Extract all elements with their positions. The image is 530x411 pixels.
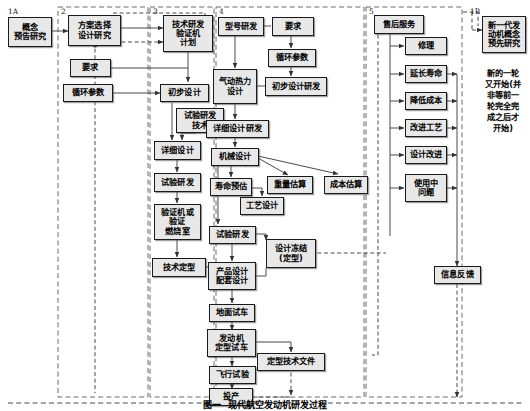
node-requirements-right[interactable]: 要求 [272,17,314,36]
section-label-4: 4 [219,7,224,16]
node-detailed-design-left[interactable]: 详细设计 [154,141,201,160]
node-life-extension[interactable]: 延长寿命 [405,65,447,83]
node-cycle-parameters-left[interactable]: 循环参数 [63,84,113,102]
node-in-service-problems[interactable]: 使用中 问题 [405,174,447,202]
node-preliminary-design-rd[interactable]: 初步设计研发 [265,77,327,96]
node-weight-estimation[interactable]: 重量估算 [267,176,313,194]
section-label-3: 3 [153,7,158,16]
section-label-1b: 1B [470,7,480,16]
node-cycle-parameters-right[interactable]: 循环参数 [268,49,316,67]
node-design-freeze[interactable]: 设计冻结 (定型) [266,239,316,268]
node-after-sales-service[interactable]: 售后服务 [374,15,424,34]
node-requirements-left[interactable]: 要求 [70,59,111,77]
node-demonstrator-or-combustor[interactable]: 验证机或 验证 燃烧室 [154,204,201,240]
node-information-feedback[interactable]: 信息反馈 [434,266,481,284]
node-aero-thermal-design[interactable]: 气动热力 设计 [213,69,257,104]
node-finalization-tech-documents[interactable]: 定型技术文件 [257,353,325,371]
node-scheme-selection-design[interactable]: 方案选择 设计研究 [68,15,121,46]
node-concept-advance-research[interactable]: 概念 预告研究 [8,17,52,47]
node-tech-rd-validator-plan[interactable]: 技术研发 验证机 计划 [163,15,213,52]
node-ground-test-run[interactable]: 地面试车 [209,304,255,322]
node-model-development[interactable]: 型号研发 [218,17,264,36]
section-label-1a: 1A [8,7,18,16]
node-technical-finalization[interactable]: 技术定型 [152,258,206,277]
node-repair[interactable]: 修理 [405,37,447,55]
node-test-rd-right[interactable]: 试验研发 [209,226,256,244]
node-engine-finalization-test[interactable]: 发动机 定型试车 [207,329,256,357]
node-cost-estimation[interactable]: 成本估算 [324,176,368,194]
node-mechanical-design[interactable]: 机械设计 [211,148,259,166]
node-life-prediction[interactable]: 寿命预估 [210,178,252,196]
node-flight-test[interactable]: 飞行试验 [209,366,256,384]
node-cost-reduction[interactable]: 降低成本 [405,92,447,110]
node-process-improvement[interactable]: 改进工艺 [405,119,447,137]
node-process-design[interactable]: 工艺设计 [240,197,284,215]
section-label-2: 2 [61,7,66,16]
annotation-new-round-note: 新的一轮 又开始(并 非等前一 轮完全完 成之后才 开始) [478,68,528,134]
node-test-rd-left[interactable]: 试验研发 [154,173,201,192]
section-label-5: 5 [369,7,374,16]
node-preliminary-design-left[interactable]: 初步设计 [160,84,209,102]
node-design-improvement[interactable]: 设计改进 [405,146,447,164]
figure-caption: 图一 现代航空发动机研发过程 [0,398,530,411]
node-product-supporting-design[interactable]: 产品设计 配套设计 [208,262,256,290]
node-detailed-design-rd[interactable]: 详细设计研发 [206,120,269,138]
node-next-gen-engine-concept[interactable]: 新一代发 动机概念 预先研究 [482,16,526,53]
